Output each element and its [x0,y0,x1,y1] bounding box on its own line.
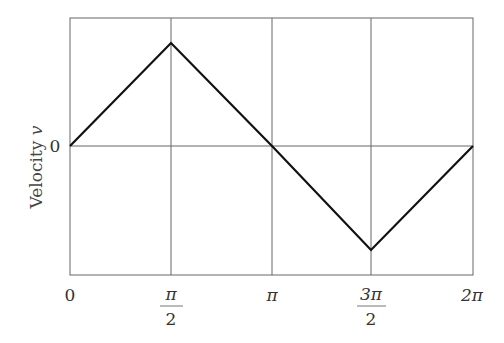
x-tick-2pi: 2π [460,285,484,305]
x-tick-0: 0 [65,285,76,305]
x-tick-3pi-half-denominator: 2 [366,309,377,329]
x-tick-3pi-half: 3π 2 [357,284,386,329]
x-tick-pi-half-numerator: π [164,284,177,304]
y-axis-label: Velocity v [26,125,46,209]
y-tick-0: 0 [50,136,61,156]
y-axis-label-text: Velocity [26,135,46,209]
velocity-chart: Velocity v 0 0 π 2 π 3π 2 2π [0,0,504,343]
x-tick-pi: π [265,285,278,305]
x-tick-pi-half: π 2 [160,284,183,329]
svg-text:Velocity v: Velocity v [26,125,46,209]
y-axis-label-symbol: v [26,125,46,135]
x-tick-pi-half-denominator: 2 [166,309,177,329]
x-tick-3pi-half-numerator: 3π [360,284,383,304]
